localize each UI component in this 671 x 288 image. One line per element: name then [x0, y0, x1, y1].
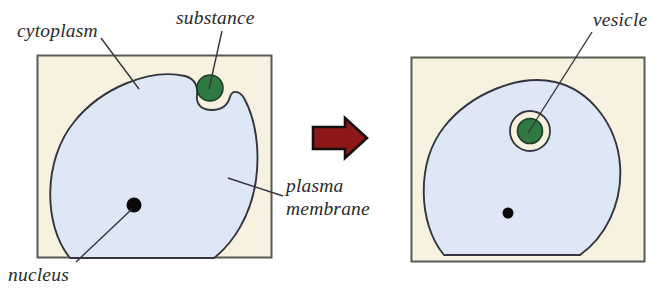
nucleus-after — [503, 208, 514, 219]
diagram-canvas: cytoplasm substance plasma membrane nucl… — [0, 0, 671, 288]
nucleus-before — [127, 198, 142, 213]
label-substance: substance — [176, 7, 255, 28]
panel-after: vesicle — [412, 9, 648, 262]
label-cytoplasm: cytoplasm — [17, 20, 98, 41]
label-plasma-membrane-line1: plasma — [284, 175, 344, 196]
arrow-right-icon — [313, 118, 367, 158]
substance-particle — [197, 75, 223, 101]
process-arrow — [313, 118, 367, 158]
endocytosis-diagram: cytoplasm substance plasma membrane nucl… — [0, 0, 671, 288]
label-nucleus: nucleus — [8, 264, 69, 285]
label-plasma-membrane-line2: membrane — [286, 198, 370, 219]
label-vesicle: vesicle — [593, 9, 648, 30]
